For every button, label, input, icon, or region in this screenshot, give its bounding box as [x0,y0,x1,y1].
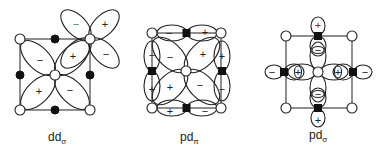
sign-label: − [315,44,321,56]
sign-label: − [67,84,73,96]
open-atom [85,105,95,115]
caption-pd-sigma: pdσ [309,128,327,144]
sign-label: + [219,50,225,62]
sign-label: + [202,26,208,38]
open-atom [15,105,25,115]
sign-label: + [167,105,173,117]
sign-label: + [295,66,301,78]
sign-label: − [219,83,225,95]
open-atom-center [181,66,191,76]
caption-subscript: π [193,137,199,146]
sign-label: − [269,66,275,78]
caption-subscript: σ [322,135,327,144]
panel-pd-sigma: + − + − − + − + [265,17,372,127]
sign-label: + [315,19,321,31]
open-atom [216,103,226,113]
filled-atom [315,33,322,40]
sign-label: + [102,18,108,30]
open-atom [347,103,357,113]
caption-main: pd [180,130,193,144]
sign-label: + [167,81,173,93]
caption-main: dd [48,130,61,144]
sign-label: + [70,50,76,62]
filled-atom [51,106,59,114]
caption-dd-sigma: ddσ [48,130,66,146]
open-atom [216,28,226,38]
sign-label: − [315,88,321,100]
orbital-overlap-figure: − + + − − + − [0,0,388,156]
filled-atom [183,105,190,112]
filled-atom [315,105,322,112]
open-atom [15,34,25,44]
open-atom [281,31,291,41]
open-atom-center [50,70,60,80]
sign-label: − [37,54,43,66]
sign-label: − [103,48,109,60]
sign-label: + [335,66,341,78]
filled-atom [219,68,226,75]
sign-label: − [197,79,203,91]
caption-main: pd [309,128,322,142]
caption-pd-pi: pdπ [180,130,199,146]
filled-atom [350,69,357,76]
sign-label: − [362,66,368,78]
open-atom [85,34,95,44]
sign-label: + [36,85,42,97]
panel-dd-sigma: − + + − − + − [15,4,125,115]
open-atom [147,103,157,113]
open-atom-center [313,67,323,77]
filled-atom [51,35,59,43]
sign-label: + [149,83,155,95]
sign-label: + [200,48,206,60]
open-atom [147,28,157,38]
open-atom [281,103,291,113]
sign-label: − [166,27,172,39]
panel-pd-pi: − + + − − + + − − + + − [144,25,230,117]
sign-label: − [149,49,155,61]
sign-label: + [315,114,321,126]
sign-label: − [73,18,79,30]
filled-atom [149,68,156,75]
caption-subscript: σ [61,137,66,146]
filled-atom [281,69,288,76]
filled-atom [183,30,190,37]
filled-atom [86,71,94,79]
open-atom [347,31,357,41]
sign-label: − [167,51,173,63]
sign-label: − [202,105,208,117]
filled-atom [16,71,24,79]
